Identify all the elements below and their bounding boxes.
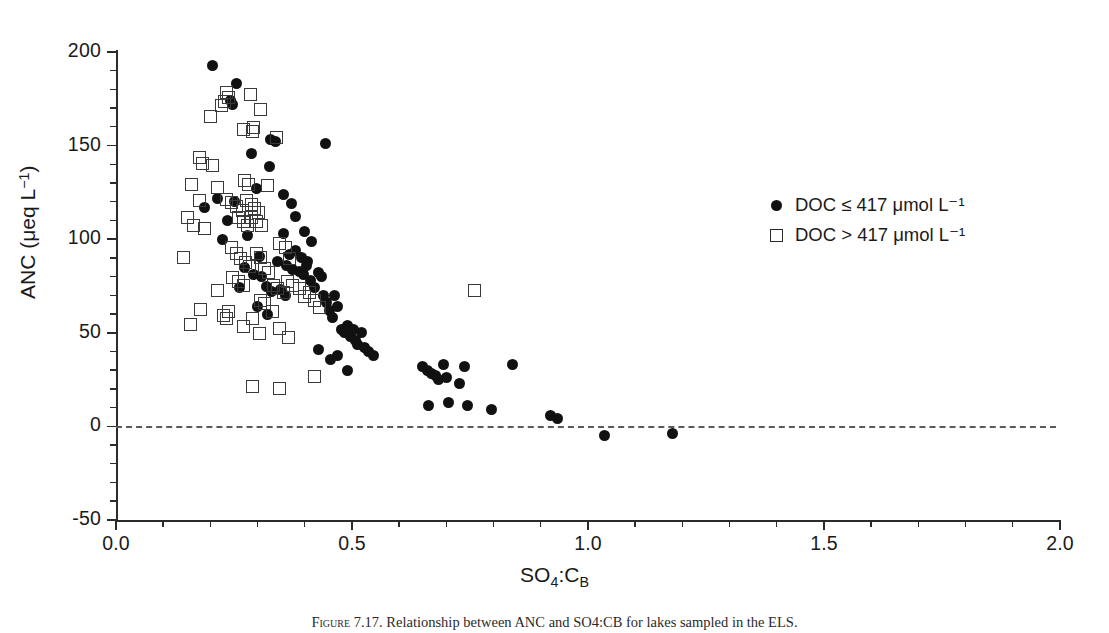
y-axis-major-tick: [107, 238, 116, 240]
data-point-doc-low: [438, 359, 449, 370]
data-point-doc-high: [222, 305, 235, 318]
data-point-doc-high: [313, 301, 326, 314]
legend-label-doc-low: DOC ≤ 417 μmol L⁻¹: [795, 194, 965, 216]
x-axis-minor-tick: [304, 521, 305, 527]
x-axis-major-tick: [587, 521, 589, 530]
data-point-doc-high: [204, 110, 217, 123]
data-point-doc-low: [301, 260, 312, 271]
data-point-doc-low: [332, 350, 343, 361]
data-point-doc-low: [306, 236, 317, 247]
data-point-doc-high: [244, 88, 257, 101]
x-axis-title-sub2: B: [579, 574, 589, 590]
data-point-doc-high: [237, 320, 250, 333]
x-axis-tick-label: 1.0: [574, 532, 602, 555]
x-axis-title-main: SO: [520, 563, 550, 586]
data-point-doc-low: [320, 138, 331, 149]
y-axis-tick-label: 200: [68, 39, 101, 62]
x-axis-major-tick: [823, 521, 825, 530]
data-point-doc-low: [332, 301, 343, 312]
y-axis-tick-label: 150: [68, 133, 101, 156]
x-axis-minor-tick: [162, 521, 163, 527]
y-axis-tick-label: 100: [68, 226, 101, 249]
data-point-doc-low: [313, 344, 324, 355]
x-axis-title-mid: :C: [558, 563, 579, 586]
x-axis-minor-tick: [493, 521, 494, 527]
x-axis-minor-tick: [729, 521, 730, 527]
open-square-icon: [765, 229, 787, 242]
scatter-plot-area: [116, 52, 1060, 520]
y-axis-major-tick: [107, 51, 116, 53]
data-point-doc-high: [215, 99, 228, 112]
data-point-doc-high: [253, 327, 266, 340]
x-axis-title: SO4:CB: [0, 563, 1109, 590]
data-point-doc-high: [242, 178, 255, 191]
x-axis-minor-tick: [918, 521, 919, 527]
x-axis-major-tick: [351, 521, 353, 530]
y-axis-title-main: ANC (: [16, 242, 39, 299]
figure-caption: Figure 7.17. Relationship between ANC an…: [0, 614, 1109, 631]
y-axis-title-mu: μ: [16, 230, 39, 242]
figure-panel: -500501001502000.00.51.01.52.0 ANC (μeq …: [0, 0, 1109, 633]
data-point-doc-low: [462, 400, 473, 411]
data-point-doc-low: [207, 60, 218, 71]
x-axis-major-tick: [1059, 521, 1061, 530]
legend-item-doc-high: DOC > 417 μmol L⁻¹: [765, 220, 965, 250]
x-axis-tick-label: 0.5: [338, 532, 366, 555]
x-axis-minor-tick: [540, 521, 541, 527]
y-axis-title-superscript: −1: [16, 173, 32, 189]
x-axis-minor-tick: [210, 521, 211, 527]
data-point-doc-low: [443, 397, 454, 408]
data-point-doc-high: [283, 252, 296, 265]
data-point-doc-high: [246, 380, 259, 393]
x-axis-minor-tick: [1012, 521, 1013, 527]
x-axis-minor-tick: [398, 521, 399, 527]
y-axis-title-unit: eq L: [16, 189, 39, 230]
y-axis-tick-label: -50: [72, 507, 101, 530]
caption-text: Relationship between ANC and SO4:CB for …: [386, 614, 797, 630]
data-point-doc-high: [468, 284, 481, 297]
data-point-doc-high: [261, 179, 274, 192]
data-point-doc-high: [247, 121, 260, 134]
x-axis-minor-tick: [446, 521, 447, 527]
x-axis-minor-tick: [776, 521, 777, 527]
data-point-doc-high: [282, 331, 295, 344]
legend-label-doc-high: DOC > 417 μmol L⁻¹: [795, 224, 965, 246]
data-point-doc-low: [356, 327, 367, 338]
data-point-doc-high: [273, 382, 286, 395]
x-axis-minor-tick: [682, 521, 683, 527]
data-point-doc-high: [262, 266, 275, 279]
data-point-doc-low: [368, 350, 379, 361]
data-point-doc-high: [193, 194, 206, 207]
data-point-doc-low: [454, 378, 465, 389]
data-point-doc-low: [329, 290, 340, 301]
data-point-doc-low: [423, 400, 434, 411]
legend-item-doc-low: DOC ≤ 417 μmol L⁻¹: [765, 190, 965, 220]
data-point-doc-high: [266, 305, 279, 318]
data-point-doc-low: [441, 372, 452, 383]
data-point-doc-high: [177, 251, 190, 264]
y-axis-major-tick: [107, 145, 116, 147]
caption-label: Figure 7.17.: [311, 614, 382, 630]
data-point-doc-low: [342, 365, 353, 376]
data-point-doc-high: [308, 370, 321, 383]
data-point-doc-high: [255, 219, 268, 232]
x-axis-minor-tick: [634, 521, 635, 527]
x-axis-tick-label: 0.0: [102, 532, 130, 555]
data-point-doc-low: [286, 198, 297, 209]
y-axis-major-tick: [107, 332, 116, 334]
data-point-doc-low: [486, 404, 497, 415]
data-point-doc-low: [552, 413, 563, 424]
data-point-doc-high: [237, 279, 250, 292]
data-point-doc-high: [194, 303, 207, 316]
data-point-doc-low: [290, 211, 301, 222]
data-point-doc-low: [327, 312, 338, 323]
data-point-doc-high: [206, 159, 219, 172]
y-axis-title: ANC (μeq L−1): [16, 32, 40, 432]
x-axis-minor-tick: [965, 521, 966, 527]
x-axis-tick-label: 2.0: [1046, 532, 1074, 555]
data-point-doc-low: [599, 430, 610, 441]
y-axis-title-end: ): [16, 166, 39, 173]
data-point-doc-high: [211, 284, 224, 297]
x-axis-major-tick: [115, 521, 117, 530]
data-point-doc-low: [316, 271, 327, 282]
